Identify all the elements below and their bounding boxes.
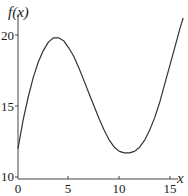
x-tick-label: 10	[113, 181, 126, 196]
y-axis-title: f(x)	[8, 4, 29, 21]
function-curve	[18, 18, 183, 153]
y-tick-label: 20	[1, 28, 14, 43]
chart: 20 15 10 0 5 10 15 f(x) x	[0, 0, 188, 196]
y-tick-label: 10	[1, 169, 14, 184]
y-tick-label: 15	[1, 99, 14, 114]
x-tick-label: 15	[164, 181, 177, 196]
x-tick-label: 5	[65, 181, 72, 196]
x-tick-label: 0	[15, 181, 22, 196]
x-axis-title: x	[176, 170, 184, 186]
